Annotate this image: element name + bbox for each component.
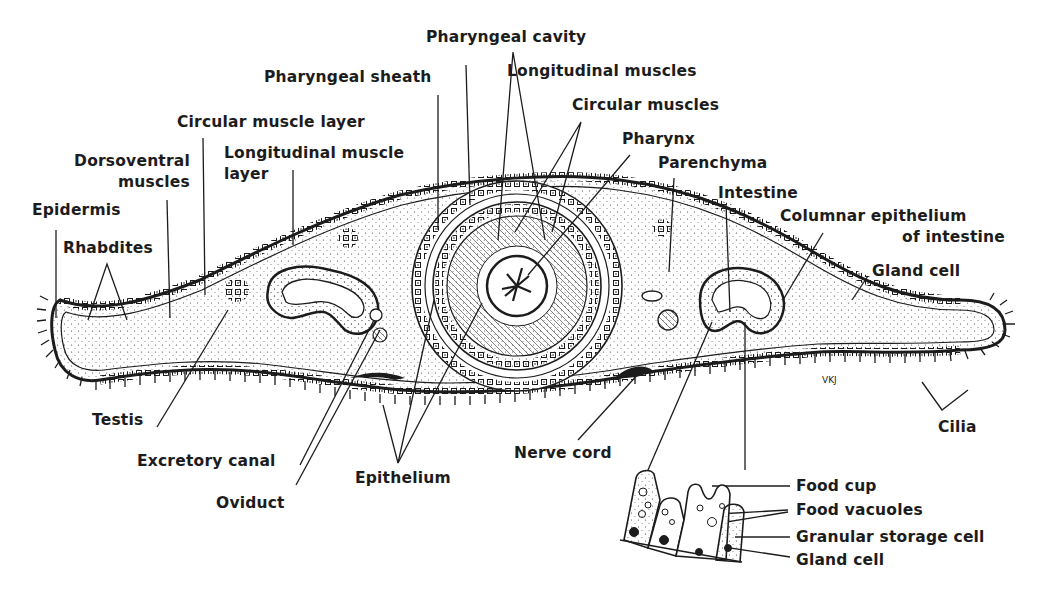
artist-signature: VKJ	[822, 375, 837, 385]
pharynx-rings	[412, 181, 622, 391]
label-gland-cell: Gland cell	[872, 262, 960, 280]
label-pharynx: Pharynx	[622, 130, 695, 148]
label-columnar-line2: of intestine	[775, 228, 1005, 246]
label-cilia: Cilia	[938, 418, 977, 436]
label-circular-muscles: Circular muscles	[572, 96, 719, 114]
label-longitudinal-layer-line2: layer	[224, 165, 404, 183]
label-epidermis: Epidermis	[32, 201, 121, 219]
label-food-vacuoles: Food vacuoles	[796, 501, 923, 519]
label-nerve-cord: Nerve cord	[514, 444, 612, 462]
label-pharyngeal-cavity: Pharyngeal cavity	[426, 28, 586, 46]
label-granular-storage-cell: Granular storage cell	[796, 528, 985, 546]
label-longitudinal-layer-line1: Longitudinal muscle	[224, 144, 404, 162]
label-gland-cell-inset: Gland cell	[796, 551, 884, 569]
label-food-cup: Food cup	[796, 477, 877, 495]
inset-epithelium-cells	[620, 471, 744, 562]
label-longitudinal-muscle-layer: Longitudinal muscle layer	[224, 144, 404, 183]
label-dorsoventral-line1: Dorsoventral	[36, 152, 190, 170]
label-testis: Testis	[92, 411, 143, 429]
label-excretory-canal: Excretory canal	[137, 452, 276, 470]
label-oviduct: Oviduct	[216, 494, 285, 512]
label-circular-muscle-layer: Circular muscle layer	[177, 113, 365, 131]
label-longitudinal-muscles: Longitudinal muscles	[507, 62, 697, 80]
label-dorsoventral-line2: muscles	[36, 173, 190, 191]
planarian-cross-section-diagram: Pharyngeal cavity Pharyngeal sheath Long…	[0, 0, 1046, 597]
label-epithelium: Epithelium	[355, 469, 451, 487]
label-rhabdites: Rhabdites	[63, 239, 153, 257]
intestine-right	[700, 268, 784, 333]
label-dorsoventral-muscles: Dorsoventral muscles	[36, 152, 190, 191]
label-columnar-line1: Columnar epithelium	[775, 207, 1005, 225]
label-parenchyma: Parenchyma	[658, 154, 768, 172]
label-intestine: Intestine	[718, 184, 798, 202]
label-pharyngeal-sheath: Pharyngeal sheath	[264, 68, 432, 86]
label-columnar-epithelium: Columnar epithelium of intestine	[775, 207, 1005, 246]
